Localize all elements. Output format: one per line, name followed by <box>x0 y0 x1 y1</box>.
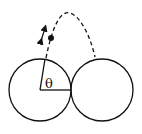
right-circle <box>71 59 133 121</box>
particle-dot <box>48 35 54 41</box>
trajectory-dashed <box>46 13 95 58</box>
diagram-canvas: θ <box>0 0 142 134</box>
velocity-arrow-icon <box>41 28 45 41</box>
theta-label: θ <box>45 76 53 91</box>
